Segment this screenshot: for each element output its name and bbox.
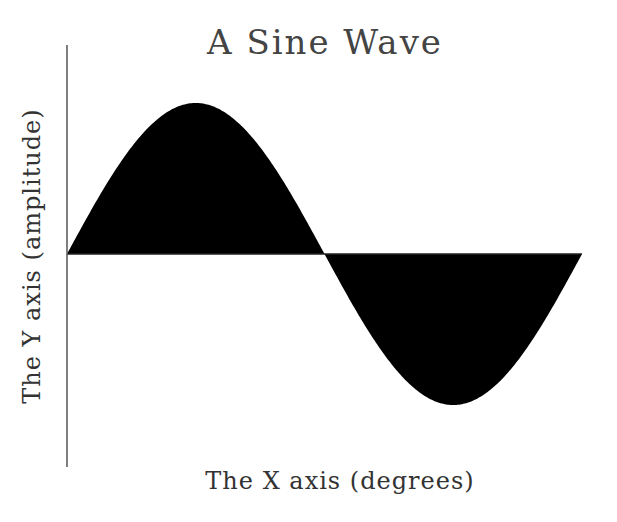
plot-area — [0, 0, 617, 522]
x-axis-label: The X axis (degrees) — [150, 466, 530, 496]
y-axis-label: The Y axis (amplitude) — [17, 46, 47, 466]
